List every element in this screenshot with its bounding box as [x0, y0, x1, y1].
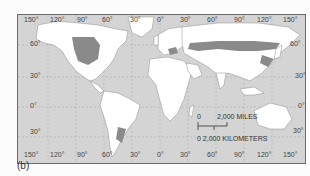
lon-label: 90° — [77, 16, 88, 24]
lon-label: 30° — [130, 16, 141, 24]
lon-label: 60° — [102, 151, 113, 159]
lon-label: 0° — [157, 16, 164, 24]
panel-label: (b) — [17, 160, 29, 171]
scale-miles-zero: 0 — [197, 113, 201, 120]
lon-label: 120° — [257, 16, 271, 24]
lon-label: 90° — [234, 151, 245, 159]
lon-label: 30° — [180, 151, 191, 159]
lat-label: 0° — [30, 102, 37, 110]
lon-label: 60° — [207, 151, 218, 159]
lon-label: 120° — [50, 151, 64, 159]
lat-label: 0° — [298, 102, 305, 110]
lon-label: 30° — [180, 16, 191, 24]
lon-label: 60° — [207, 16, 218, 24]
scale-miles-label: 2,000 MILES — [217, 113, 257, 120]
lat-label: 30° — [295, 72, 306, 80]
lon-label: 120° — [50, 16, 64, 24]
lon-label: 150° — [24, 151, 38, 159]
lon-label: 30° — [130, 151, 141, 159]
lat-label: 30° — [30, 72, 41, 80]
scale-km-label: 0 2,000 KILOMETERS — [197, 135, 267, 142]
scale-bar-graphic — [197, 122, 231, 132]
lon-label: 90° — [77, 151, 88, 159]
lon-label: 0° — [157, 151, 164, 159]
lat-label: 60° — [290, 40, 301, 48]
lon-label: 60° — [102, 16, 113, 24]
lon-label: 150° — [24, 16, 38, 24]
lon-label: 150° — [283, 151, 297, 159]
lat-label: 60° — [30, 40, 41, 48]
lon-label: 120° — [257, 151, 271, 159]
lon-label: 150° — [283, 16, 297, 24]
lat-label: 30° — [293, 127, 304, 135]
lat-label: 30° — [30, 128, 41, 136]
lon-label: 90° — [234, 16, 245, 24]
